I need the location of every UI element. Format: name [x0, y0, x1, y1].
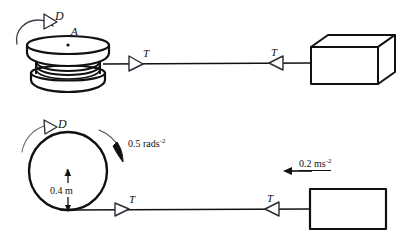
tension-label-left-upper: T [143, 48, 149, 59]
rotation-label-lower: D [58, 118, 67, 130]
tension-label-right-upper: T [271, 47, 277, 58]
rotation-label-upper: D [55, 10, 64, 22]
spool-centre-label: A [71, 26, 78, 37]
block-lower [310, 189, 386, 229]
tension-arrow-left-lower [115, 203, 129, 216]
diagram-canvas: D A T T D 0.5 rads-2 A 0.4 m 0.2 ms-2 T … [0, 0, 405, 235]
angular-acceleration-exponent: -2 [160, 137, 166, 144]
tension-label-left-lower: T [129, 194, 135, 205]
angular-acceleration-value: 0.5 rads [128, 138, 160, 149]
linear-acceleration-label: 0.2 ms-2 [299, 158, 331, 171]
tension-arrow-right-lower [265, 202, 279, 216]
spool-centre-dot [66, 43, 69, 46]
radius-label: 0.4 m [50, 186, 73, 196]
tension-arrow-left-upper [129, 56, 143, 71]
tension-label-right-lower: T [267, 193, 273, 204]
tension-arrow-right-upper [269, 56, 283, 70]
wheel-centre-label: A [64, 168, 71, 178]
spool-top-disc [27, 36, 109, 66]
block-upper [311, 35, 395, 84]
angular-acceleration-label: 0.5 rads-2 [128, 138, 165, 149]
linear-acceleration-exponent: -2 [326, 157, 332, 164]
linear-acceleration-value: 0.2 ms [299, 158, 326, 169]
